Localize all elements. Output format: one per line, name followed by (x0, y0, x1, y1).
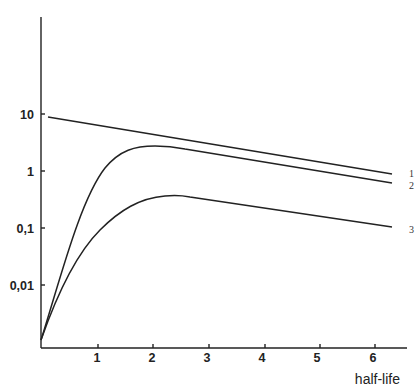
x-tick-label: 3 (204, 351, 211, 365)
chart: 10 1 0,1 0,01 1 2 3 4 5 6 half-life 1 2 … (0, 0, 419, 388)
x-tick-label: 2 (149, 351, 156, 365)
y-tick-label: 10 (20, 108, 34, 122)
curve-3 (41, 195, 392, 340)
y-tick-label: 0,1 (17, 222, 34, 236)
curve-2 (41, 146, 392, 340)
x-tick-label: 6 (370, 351, 377, 365)
curve-label-2: 2 (409, 180, 414, 191)
x-tick-label: 4 (259, 351, 266, 365)
x-tick-label: 5 (314, 351, 321, 365)
x-tick-label: 1 (94, 351, 101, 365)
curve-label-3: 3 (409, 224, 414, 235)
y-tick-label: 1 (27, 165, 34, 179)
x-axis-title: half-life (355, 371, 400, 387)
y-tick-label: 0,01 (10, 279, 34, 293)
curve-label-1: 1 (409, 168, 414, 179)
curve-1 (48, 117, 392, 174)
